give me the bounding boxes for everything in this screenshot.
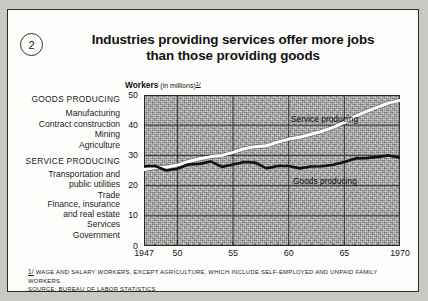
x-tick-60: 60 [284,248,294,258]
plot-svg [144,95,400,246]
figure-number-badge: 2 [20,33,43,56]
y-axis-title-main: Workers [125,80,158,90]
category-item-manufacturing: Manufacturing [8,108,120,118]
category-item-agriculture: Agriculture [8,140,120,150]
category-label-column: GOODS PRODUCING Manufacturing Contract c… [8,94,120,240]
footnote-line-1: 1/ WAGE AND SALARY WORKERS, EXCEPT AGRIC… [28,268,408,285]
footnote: 1/ WAGE AND SALARY WORKERS, EXCEPT AGRIC… [28,268,408,294]
x-tick-50: 50 [172,248,182,258]
y-axis-footnote-mark: 1/ [196,81,201,87]
y-tick-40: 40 [112,120,138,130]
x-tick-1970: 1970 [390,248,410,258]
category-item-government: Government [8,230,120,240]
title-line-2: than those providing goods [68,48,398,64]
page-title: Industries providing services offer more… [68,32,398,63]
category-group-goods: GOODS PRODUCING [8,94,120,104]
category-item-transportation-2: public utilities [8,180,120,190]
y-axis-title: Workers (in millions)1/ [125,80,201,90]
chart-page: 2 Industries providing services offer mo… [7,9,419,292]
y-axis-title-sub: (in millions) [160,82,195,89]
plot-area [144,95,400,246]
footnote-mark: 1/ [28,268,34,275]
x-tick-65: 65 [339,248,349,258]
x-tick-55: 55 [228,248,238,258]
category-group-service: SERVICE PRODUCING [8,156,120,166]
x-tick-1947: 1947 [134,248,154,258]
y-tick-30: 30 [112,150,138,160]
category-item-services: Services [8,219,120,229]
series-label-goods-producing: Goods producing [293,176,357,186]
title-line-1: Industries providing services offer more… [68,32,398,48]
category-item-mining: Mining [8,129,120,139]
footnote-line-2: SOURCE: BUREAU OF LABOR STATISTICS [28,285,408,294]
y-tick-50: 50 [112,90,138,100]
y-tick-20: 20 [112,180,138,190]
figure-number: 2 [28,39,34,51]
series-label-service-producing: Service producing [291,114,358,124]
category-item-contract-construction: Contract construction [8,119,120,129]
y-tick-10: 10 [112,210,138,220]
category-item-finance-2: and real estate [8,210,120,220]
footnote-text-1: WAGE AND SALARY WORKERS, EXCEPT AGRICULT… [28,269,377,284]
